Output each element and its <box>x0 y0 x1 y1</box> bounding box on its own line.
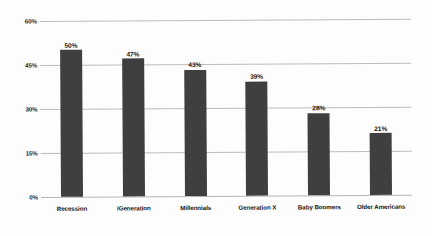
bar-slot: 50% <box>60 21 83 197</box>
bar <box>246 81 269 196</box>
bar <box>60 50 83 197</box>
bar-slot: 39% <box>245 20 268 196</box>
plot-area: 50%47%43%39%28%21% <box>40 19 412 197</box>
bar-value-label: 47% <box>126 50 139 57</box>
chart-plot-wrapper: 0%15%30%45%60% 50%47%43%39%28%21% Recess… <box>0 0 432 236</box>
bar <box>370 133 392 195</box>
bar-chart: 0%15%30%45%60% 50%47%43%39%28%21% Recess… <box>0 0 432 236</box>
bar-slot: 47% <box>122 20 145 196</box>
x-axis-category-label: Millennials <box>180 204 211 211</box>
bar-value-label: 28% <box>312 105 325 112</box>
bar <box>184 70 207 196</box>
bar-value-label: 39% <box>250 73 263 80</box>
bar-slot: 28% <box>307 19 330 195</box>
y-axis-tick-label: 45% <box>3 62 37 69</box>
x-axis-category-label: Generation X <box>238 204 276 211</box>
x-axis-category-label: Recession <box>57 205 88 212</box>
y-axis-tick-label: 60% <box>3 18 37 25</box>
bar-value-label: 21% <box>374 125 387 132</box>
y-axis-tick-label: 15% <box>4 150 38 157</box>
bar-value-label: 43% <box>188 61 201 68</box>
x-axis-category-label: Baby Boomers <box>298 203 341 210</box>
bar-value-label: 50% <box>64 42 77 49</box>
bar <box>122 58 145 196</box>
x-axis-category-label: Older Americans <box>357 203 406 210</box>
y-axis-tick-label: 0% <box>4 194 38 201</box>
y-axis-tick-label: 30% <box>3 106 37 113</box>
x-axis-category-label: iGeneration <box>117 204 151 211</box>
y-axis: 0%15%30%45%60% <box>0 0 38 236</box>
bar-slot: 21% <box>369 19 392 195</box>
bar <box>308 113 331 195</box>
bar-slot: 43% <box>184 20 207 196</box>
